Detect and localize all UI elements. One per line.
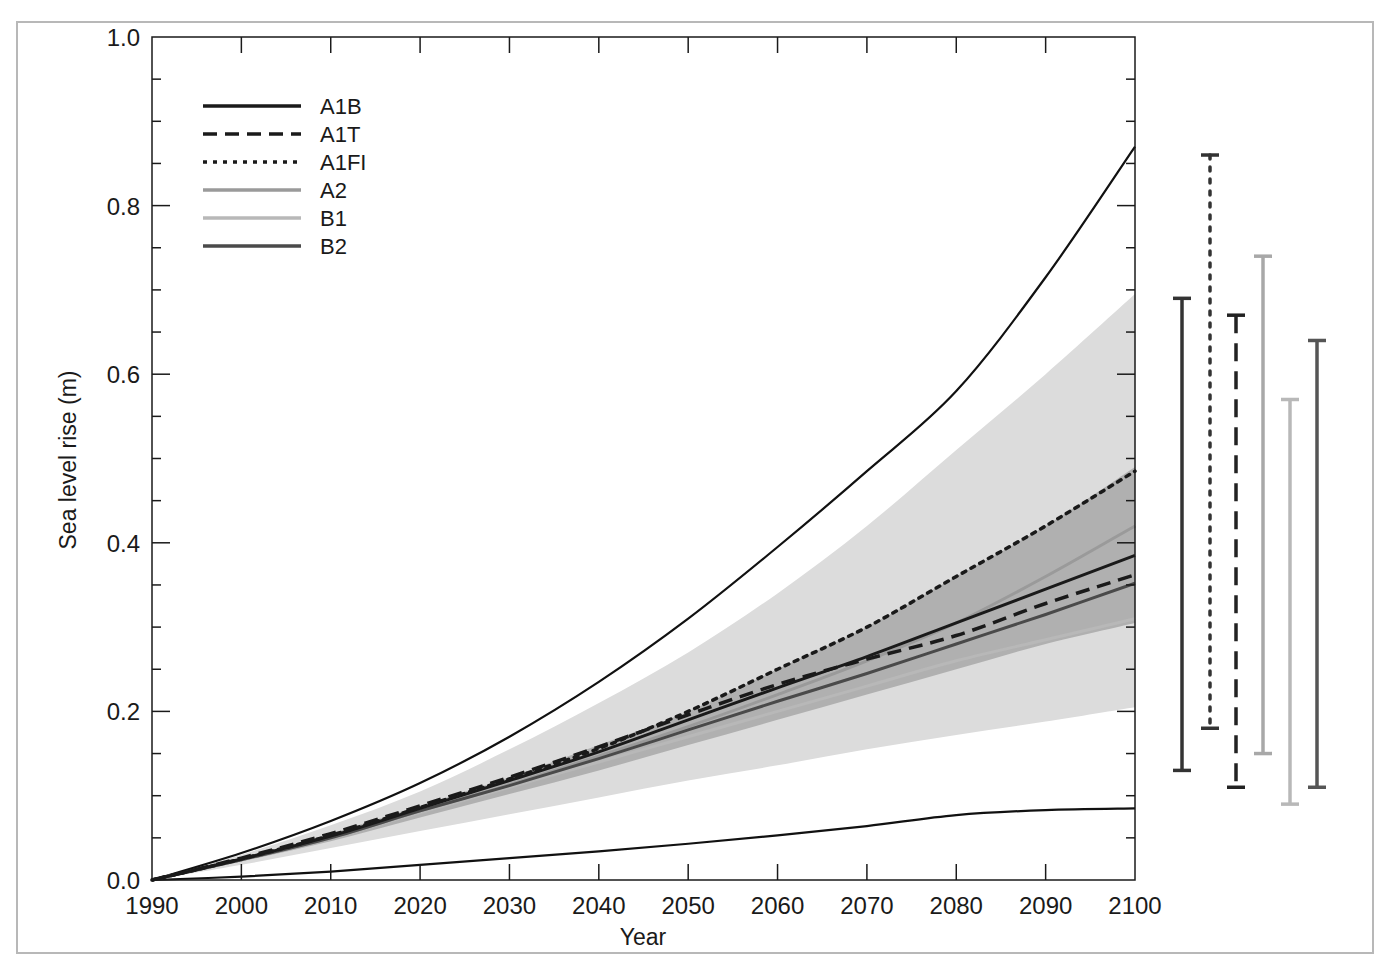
legend: A1BA1TA1FIA2B1B2 <box>203 94 366 259</box>
range-bars-2100 <box>1173 155 1326 804</box>
y-tick-label: 0.6 <box>107 361 140 388</box>
x-tick-label: 2060 <box>751 892 804 919</box>
y-tick-label: 1.0 <box>107 24 140 51</box>
legend-label: A1FI <box>320 150 366 175</box>
range-bar-a1b <box>1173 298 1191 770</box>
y-tick-label: 0.0 <box>107 867 140 894</box>
sea-level-chart: 1990200020102020203020402050206020702080… <box>0 0 1380 966</box>
range-bar-b2 <box>1308 340 1326 787</box>
x-tick-label: 2100 <box>1108 892 1161 919</box>
x-axis-title: Year <box>620 924 667 950</box>
x-tick-label: 2080 <box>930 892 983 919</box>
x-tick-label: 2000 <box>215 892 268 919</box>
legend-label: A2 <box>320 178 347 203</box>
x-tick-label: 2020 <box>393 892 446 919</box>
y-axis-title: Sea level rise (m) <box>55 371 81 550</box>
x-tick-label: 2040 <box>572 892 625 919</box>
legend-label: A1B <box>320 94 362 119</box>
legend-label: B2 <box>320 234 347 259</box>
legend-label: B1 <box>320 206 347 231</box>
range-bar-a1fi <box>1201 155 1219 728</box>
range-bar-b1 <box>1281 399 1299 804</box>
range-bar-a2 <box>1254 256 1272 753</box>
x-tick-label: 2030 <box>483 892 536 919</box>
uncertainty-envelopes <box>152 294 1135 880</box>
x-tick-label: 1990 <box>125 892 178 919</box>
x-tick-label: 2050 <box>661 892 714 919</box>
y-tick-label: 0.2 <box>107 698 140 725</box>
x-tick-label: 2070 <box>840 892 893 919</box>
x-tick-label: 2090 <box>1019 892 1072 919</box>
x-tick-label: 2010 <box>304 892 357 919</box>
legend-label: A1T <box>320 122 360 147</box>
y-tick-label: 0.4 <box>107 530 140 557</box>
range-bar-a1t <box>1227 315 1245 787</box>
y-tick-label: 0.8 <box>107 193 140 220</box>
